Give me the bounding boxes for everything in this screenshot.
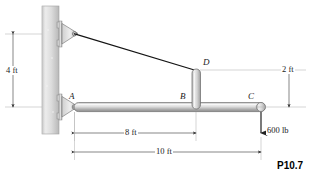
engineering-figure: A B C D 4 ft 8 ft 10 ft 2 ft 600 lb P10.… xyxy=(0,0,319,179)
cable xyxy=(76,34,197,70)
label-point-c: C xyxy=(248,92,254,101)
horizontal-beam xyxy=(74,103,265,112)
dimension-label-8ft: 8 ft xyxy=(124,128,138,137)
label-point-b: B xyxy=(180,92,186,101)
label-point-d: D xyxy=(203,58,210,67)
label-point-a: A xyxy=(69,92,75,101)
vertical-post xyxy=(192,69,201,109)
upper-wall-bracket xyxy=(57,21,78,47)
dimension-2ft xyxy=(200,70,306,107)
wall xyxy=(42,6,59,134)
dimension-label-10ft: 10 ft xyxy=(155,147,173,156)
load-label-600lb: 600 lb xyxy=(266,126,290,135)
figure-caption: P10.7 xyxy=(277,161,303,171)
dimension-label-2ft: 2 ft xyxy=(281,65,295,74)
dimension-label-4ft: 4 ft xyxy=(5,66,19,75)
